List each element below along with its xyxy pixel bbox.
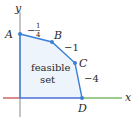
slope-ab-numerator: 1 [36, 22, 40, 30]
y-axis-label: y [14, 2, 22, 15]
vertex-b-label: B [53, 29, 62, 42]
slope-ab-denominator: 4 [36, 31, 41, 39]
vertex-c-label: C [79, 57, 88, 70]
vertex-d-dot [80, 96, 84, 100]
slope-ab-sign: − [27, 25, 35, 36]
slope-bc-label: −1 [64, 42, 79, 53]
slope-cd-label: −4 [84, 73, 99, 84]
feasible-set-label-line2: set [40, 74, 55, 85]
vertex-a-label: A [4, 28, 13, 41]
feasible-set-label-line1: feasible [31, 62, 71, 73]
vertex-c-dot [73, 61, 77, 65]
vertex-d-label: D [77, 102, 87, 115]
feasible-set-diagram: y x A B C D − 1 4 −1 −4 feasible set [0, 0, 135, 117]
x-axis-label: x [125, 91, 132, 104]
vertex-a-dot [18, 32, 22, 36]
